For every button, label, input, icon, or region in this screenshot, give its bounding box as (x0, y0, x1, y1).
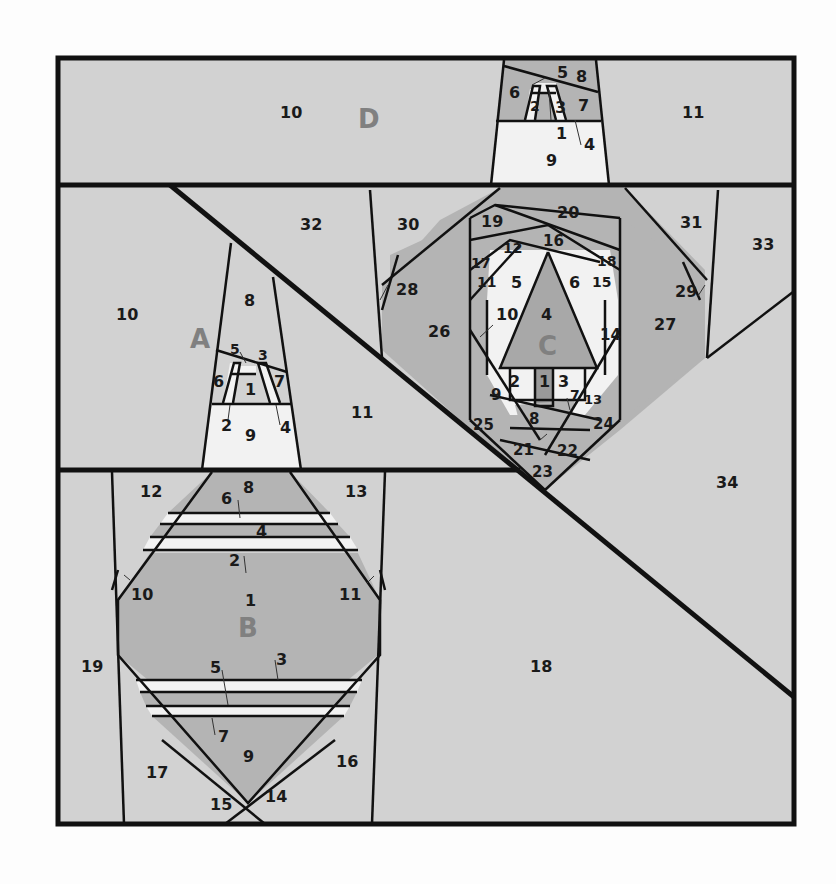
b-label-3: 3 (276, 650, 287, 669)
c-label-32: 32 (300, 215, 322, 234)
c-label-28: 28 (396, 280, 418, 299)
c-label-3: 3 (558, 372, 569, 391)
d-label-10: 10 (280, 103, 302, 122)
c-label-23: 23 (532, 463, 553, 481)
b-label-17: 17 (146, 763, 168, 782)
c-label-33: 33 (752, 235, 774, 254)
c-label-21: 21 (513, 441, 534, 459)
b-piece-2 (143, 537, 358, 550)
b-label-5: 5 (210, 658, 221, 677)
d-piece-3 (531, 83, 556, 93)
d-label-4: 4 (584, 135, 595, 154)
b-label-12: 12 (140, 482, 162, 501)
c-label-9: 9 (491, 386, 501, 404)
section-letter-c: C (538, 331, 557, 361)
c-label-20: 20 (557, 203, 579, 222)
b-piece-3 (136, 680, 362, 692)
c-label-24: 24 (593, 415, 614, 433)
a-label-6: 6 (213, 372, 224, 391)
d-label-11: 11 (682, 103, 704, 122)
fills (58, 58, 794, 824)
a-label-4: 4 (280, 418, 291, 437)
b-label-16: 16 (336, 752, 358, 771)
a-label-11: 11 (351, 403, 373, 422)
c-label-26: 26 (428, 322, 450, 341)
c-label-2: 2 (509, 372, 520, 391)
c-label-25: 25 (473, 416, 494, 434)
a-label-1: 1 (245, 380, 256, 399)
c-label-15: 15 (592, 274, 611, 290)
d-label-8: 8 (576, 67, 587, 86)
b-piece-7 (146, 706, 350, 716)
c-label-18: 18 (597, 253, 616, 269)
c-label-4: 4 (541, 305, 552, 324)
a-label-9: 9 (245, 426, 256, 445)
c-label-22: 22 (557, 442, 578, 460)
c-label-19: 19 (481, 212, 503, 231)
c-label-11: 11 (477, 274, 496, 290)
c-label-12: 12 (503, 240, 522, 256)
b-label-13: 13 (345, 482, 367, 501)
d-label-3: 3 (555, 98, 566, 117)
c-label-16: 16 (543, 232, 564, 250)
d-label-2: 2 (530, 98, 540, 114)
c-label-10: 10 (496, 305, 518, 324)
c-label-34: 34 (716, 473, 738, 492)
c-label-14: 14 (600, 326, 621, 344)
c-label-30: 30 (397, 215, 419, 234)
d-label-5: 5 (557, 63, 568, 82)
a-label-5: 5 (230, 341, 240, 357)
section-letter-a: A (190, 324, 210, 354)
a-label-2: 2 (221, 416, 232, 435)
c-label-27: 27 (654, 315, 676, 334)
c-label-13: 13 (584, 392, 602, 407)
b-piece-5 (140, 692, 357, 706)
c-label-7: 7 (570, 387, 580, 403)
a-label-8: 8 (244, 291, 255, 310)
d-label-6: 6 (509, 83, 520, 102)
b-label-18: 18 (530, 657, 552, 676)
d-label-9: 9 (546, 151, 557, 170)
b-label-4: 4 (256, 522, 267, 541)
b-label-11: 11 (339, 585, 361, 604)
b-label-19: 19 (81, 657, 103, 676)
c-label-1: 1 (539, 372, 550, 391)
d-label-1: 1 (556, 124, 567, 143)
b-label-15: 15 (210, 795, 232, 814)
paper-piecing-diagram: D A C B 10 11 6 5 8 2 3 7 1 4 9 10 8 5 3… (0, 0, 836, 884)
a-label-3: 3 (258, 347, 268, 363)
b-label-1: 1 (245, 591, 256, 610)
c-label-29: 29 (675, 282, 697, 301)
b-label-9: 9 (243, 747, 254, 766)
b-label-10: 10 (131, 585, 153, 604)
b-label-8: 8 (243, 478, 254, 497)
c-label-17: 17 (471, 255, 490, 271)
c-label-31: 31 (680, 213, 702, 232)
c-label-6: 6 (569, 273, 580, 292)
b-label-7: 7 (218, 727, 229, 746)
a-label-7: 7 (274, 372, 285, 391)
d-label-7: 7 (578, 96, 589, 115)
section-letter-d: D (358, 104, 380, 134)
b-piece-4 (150, 524, 350, 537)
b-label-2: 2 (229, 551, 240, 570)
a-label-10: 10 (116, 305, 138, 324)
b-label-6: 6 (221, 489, 232, 508)
c-label-5: 5 (511, 273, 522, 292)
section-letter-b: B (238, 613, 258, 643)
b-label-14: 14 (265, 787, 287, 806)
c-label-8: 8 (529, 410, 539, 428)
b-piece-6 (160, 513, 338, 524)
